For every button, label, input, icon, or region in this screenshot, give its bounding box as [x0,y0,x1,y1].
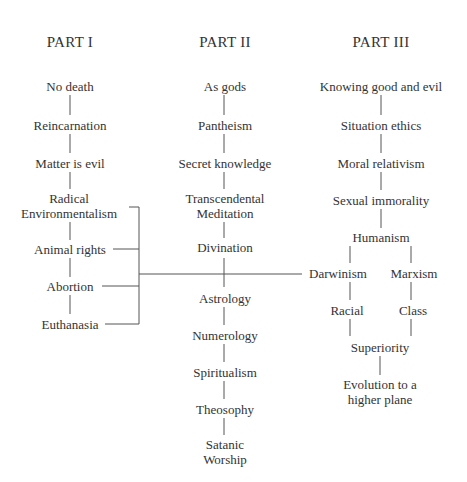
node: No death [46,79,93,94]
node: Numerology [192,328,258,343]
node: Pantheism [198,118,252,133]
node: Animal rights [34,242,106,257]
node: Matter is evil [35,156,104,171]
diagram-canvas: PART I PART II PART III No death Reincar… [0,0,467,482]
node: Reincarnation [34,118,107,133]
node: As gods [204,79,246,94]
node: Knowing good and evil [320,79,442,94]
part-title: PART I [47,35,93,50]
node: Darwinism [309,266,367,281]
node: Spiritualism [193,365,257,380]
node: Theosophy [196,402,254,417]
node: Sexual immorality [333,193,429,208]
node: Divination [197,240,253,255]
node: Astrology [199,291,251,306]
node: Racial [330,303,363,318]
node: Secret knowledge [179,156,272,171]
node: Humanism [352,230,409,245]
part-title: PART III [353,35,410,50]
node: Abortion [47,279,94,294]
node: Class [399,303,427,318]
node: Superiority [351,340,410,355]
node: Transcendental Meditation [186,191,265,221]
node: Moral relativism [337,156,424,171]
node: Euthanasia [41,317,98,332]
node: Situation ethics [341,118,422,133]
node: Marxism [391,266,438,281]
node: Evolution to a higher plane [343,377,417,407]
part-title: PART II [199,35,251,50]
node: Satanic Worship [203,437,247,467]
node: Radical Environmentalism [21,191,117,221]
